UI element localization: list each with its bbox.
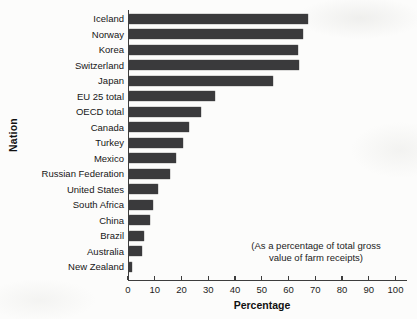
x-tick-label: 100 [381,284,411,295]
bar [129,153,176,163]
category-label: Japan [0,75,124,86]
bar [129,138,183,148]
x-tick-label: 20 [167,284,197,295]
x-tick-mark [261,276,262,281]
chart-row: Canada [0,120,417,136]
x-tick-label: 10 [140,284,170,295]
category-label: Australia [0,246,124,257]
x-tick-mark [208,276,209,281]
chart-row: Russian Federation [0,166,417,182]
bar [129,60,299,70]
x-tick-mark [315,276,316,281]
x-tick-label: 30 [193,284,223,295]
bar [129,76,273,86]
bar [129,91,215,101]
category-label: United States [0,184,124,195]
category-label: Turkey [0,137,124,148]
chart-row: Mexico [0,151,417,167]
bar [129,262,132,272]
bar [129,29,303,39]
bar [129,122,189,132]
bar [129,184,158,194]
chart-annotation: (As a percentage of total gross value of… [230,240,402,263]
chart-row: Switzerland [0,58,417,74]
bar [129,169,170,179]
bar [129,200,153,210]
chart-row: China [0,213,417,229]
x-tick-label: 80 [327,284,357,295]
category-label: EU 25 total [0,91,124,102]
chart-row: Iceland [0,11,417,27]
chart-row: Norway [0,27,417,43]
category-label: Canada [0,122,124,133]
bar [129,246,142,256]
category-label: Switzerland [0,60,124,71]
x-tick-mark [341,276,342,281]
category-label: Korea [0,44,124,55]
category-label: South Africa [0,199,124,210]
x-tick-label: 60 [274,284,304,295]
chart-row: OECD total [0,104,417,120]
x-tick-mark [368,276,369,281]
annotation-line-1: (As a percentage of total gross [230,240,402,252]
bar [129,14,308,24]
chart-row: Turkey [0,135,417,151]
x-tick-mark [234,276,235,281]
x-tick-mark [154,276,155,281]
chart-row: South Africa [0,197,417,213]
x-axis-line [128,280,407,281]
category-label: New Zealand [0,261,124,272]
category-label: Iceland [0,13,124,24]
chart-row: Korea [0,42,417,58]
farm-support-bar-chart: Nation IcelandNorwayKoreaSwitzerlandJapa… [0,0,417,319]
x-axis-title: Percentage [128,299,396,311]
x-tick-mark [288,276,289,281]
x-tick-label: 0 [113,284,143,295]
category-label: Mexico [0,153,124,164]
category-label: OECD total [0,106,124,117]
chart-row: Japan [0,73,417,89]
x-tick-label: 90 [354,284,384,295]
category-label: Norway [0,29,124,40]
x-tick-label: 50 [247,284,277,295]
category-label: China [0,215,124,226]
bar [129,45,298,55]
x-tick-label: 70 [300,284,330,295]
chart-row: EU 25 total [0,89,417,105]
bar [129,231,144,241]
bar [129,107,201,117]
category-label: Russian Federation [0,168,124,179]
x-tick-mark [127,276,128,281]
x-tick-mark [181,276,182,281]
x-tick-label: 40 [220,284,250,295]
x-tick-mark [395,276,396,281]
y-axis-line [128,10,130,281]
bar [129,215,150,225]
chart-row: United States [0,182,417,198]
category-label: Brazil [0,230,124,241]
annotation-line-2: value of farm receipts) [230,252,402,264]
